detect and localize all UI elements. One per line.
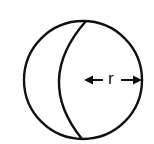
radius-label: r (108, 70, 114, 87)
left-arrowhead-icon (84, 76, 93, 85)
sphere-diagram (0, 0, 154, 144)
inner-arc (59, 21, 86, 139)
right-arrowhead-icon (133, 76, 142, 85)
